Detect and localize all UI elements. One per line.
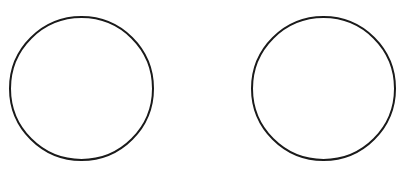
right-circle: [252, 17, 395, 160]
left-circle: [10, 17, 153, 160]
diagram-canvas: [0, 0, 404, 175]
